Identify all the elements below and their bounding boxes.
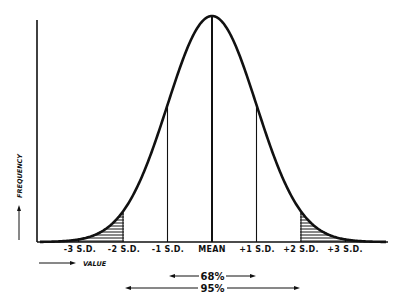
range-95-label: 95%	[201, 283, 225, 294]
value-arrow-icon	[39, 261, 76, 265]
tick-label-plus-3sd: +3 S.D.	[327, 245, 363, 254]
tick-label-minus-2sd: -2 S.D.	[108, 245, 140, 254]
frequency-arrow-icon	[17, 205, 21, 240]
tick-label-minus-3sd: -3 S.D.	[64, 245, 96, 254]
tick-label-minus-1sd: -1 S.D.	[152, 245, 184, 254]
tick-label-plus-2sd: +2 S.D.	[283, 245, 319, 254]
range-68-label: 68%	[201, 271, 225, 282]
y-axis-label: FREQUENCY	[16, 153, 24, 198]
right-tail-shading	[300, 100, 388, 242]
tick-label-mean: MEAN	[198, 245, 226, 254]
left-tail-shading	[37, 100, 124, 242]
x-axis-label: VALUE	[83, 260, 107, 268]
tick-label-plus-1sd: +1 S.D.	[239, 245, 275, 254]
normal-distribution-diagram: -3 S.D. -2 S.D. -1 S.D. MEAN +1 S.D. +2 …	[0, 0, 399, 308]
